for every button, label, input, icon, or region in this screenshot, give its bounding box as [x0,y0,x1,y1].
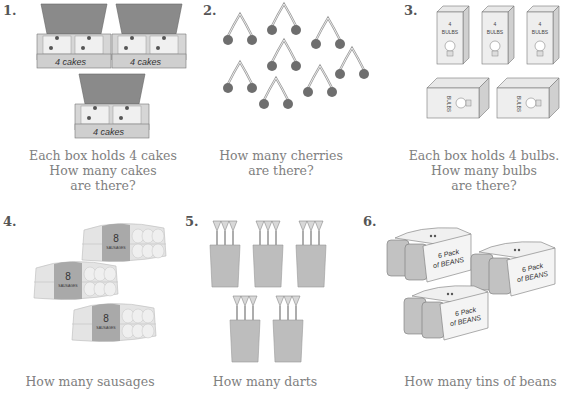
dart-pot [230,296,260,362]
svg-text:4: 4 [494,21,497,27]
cherry-pair [335,48,369,79]
cherry-pair [303,66,337,97]
svg-text:8: 8 [65,271,71,282]
question-text: How many tins of beans [393,374,568,389]
dart-pot [296,221,326,287]
svg-text:4 cakes: 4 cakes [130,57,162,67]
svg-text:4 cakes: 4 cakes [93,127,125,137]
svg-text:4: 4 [449,21,452,27]
svg-text:BULBS: BULBS [532,29,549,35]
sausage-pack: 8SAUSAGES [82,223,166,261]
svg-text:SAUSAGES: SAUSAGES [96,326,116,330]
question-text: How many cherries are there? [216,148,346,178]
sausage-pack: 8SAUSAGES [72,303,156,341]
question-number: 5. [185,214,199,229]
question-text: How many sausages [20,374,160,389]
bulb-box: 4BULBS [527,6,559,64]
cake-box: 4 cakes [75,74,149,138]
cherry-pair [259,78,293,109]
cherry-pair [311,18,345,49]
cake-box: 4 cakes [37,4,111,68]
svg-text:SAUSAGES: SAUSAGES [58,284,78,288]
cherry-pair [223,14,257,45]
sausage-pack: 8SAUSAGES [34,261,118,299]
svg-text:BULBS: BULBS [446,96,452,113]
question-number: 6. [363,214,377,229]
svg-text:BULBS: BULBS [487,29,504,35]
svg-text:BULBS: BULBS [442,29,459,35]
cake-box: 4 cakes [112,4,186,68]
dart-pots-illustration [208,221,348,371]
bean-pack: 6 Packof BEANS [387,228,471,282]
dart-pot [273,296,303,362]
svg-text:4 cakes: 4 cakes [55,57,87,67]
cherry-pair [223,62,257,93]
svg-text:BULBS: BULBS [516,96,522,113]
cherry-pair [267,4,301,35]
question-number: 2. [203,3,217,18]
question-text: How many darts [210,374,320,389]
svg-text:SAUSAGES: SAUSAGES [106,246,126,250]
question-text: Each box holds 4 bulbs. How many bulbs a… [400,148,568,193]
bulb-box: BULBS [427,78,489,118]
question-number: 3. [404,3,418,18]
question-number: 1. [3,3,17,18]
cherry-pair [267,40,301,71]
svg-text:8: 8 [113,233,119,244]
dart-pot [210,221,240,287]
svg-text:4: 4 [539,21,542,27]
bean-packs-illustration: 6 Packof BEANS 6 Packof BEANS 6 Packof B… [387,226,567,336]
bean-pack: 6 Packof BEANS [404,286,488,340]
dart-pot [253,221,283,287]
svg-text:8: 8 [103,313,109,324]
bean-pack: 6 Packof BEANS [471,242,555,296]
bulb-box: 4BULBS [482,6,514,64]
bulb-box: 4BULBS [437,6,469,64]
bulb-box: BULBS [497,78,559,118]
sausage-packs-illustration: 8SAUSAGES 8SAUSAGES 8SAUSAGES [28,222,188,347]
cake-boxes-illustration: 4 cakes 4 cakes 4 cakes [35,4,185,139]
bulb-boxes-illustration: 4BULBS 4BULBS 4BULBS BULBS BULBS [422,6,568,126]
question-text: Each box holds 4 cakes How many cakes ar… [18,148,188,193]
question-number: 4. [3,214,17,229]
cherries-illustration [222,4,392,114]
